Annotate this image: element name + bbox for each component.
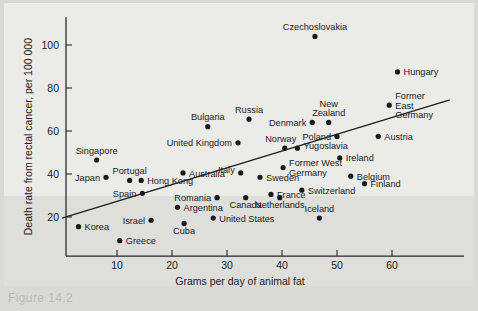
data-point[interactable] bbox=[76, 224, 81, 229]
data-point-labels-group: KoreaJapanSingaporeGreecePortugalHong Ko… bbox=[75, 22, 439, 246]
data-point[interactable] bbox=[211, 215, 216, 220]
data-point-label: Denmark bbox=[269, 118, 307, 128]
data-point[interactable] bbox=[310, 120, 315, 125]
data-point-label: Austria bbox=[384, 132, 413, 142]
data-point[interactable] bbox=[94, 157, 99, 162]
data-point-label: Poland bbox=[302, 132, 331, 142]
data-point[interactable] bbox=[312, 34, 317, 39]
data-points-group bbox=[76, 34, 400, 243]
data-point-label: Russia bbox=[235, 105, 264, 115]
figure-caption: Figure 14.2 bbox=[8, 291, 73, 305]
data-point[interactable] bbox=[282, 146, 287, 151]
data-point-label: Singapore bbox=[76, 146, 118, 156]
data-point[interactable] bbox=[139, 178, 144, 183]
data-point-label: Norway bbox=[265, 134, 297, 144]
scatter-plot: 20406080100102030405060 KoreaJapanSingap… bbox=[0, 0, 478, 311]
data-point[interactable] bbox=[205, 124, 210, 129]
data-point-label: Ireland bbox=[346, 153, 374, 163]
axis-titles-group: Grams per day of animal fatDeath rate fr… bbox=[22, 38, 305, 287]
data-point[interactable] bbox=[246, 117, 251, 122]
data-point-label: Czechoslovakia bbox=[283, 22, 348, 32]
data-point[interactable] bbox=[376, 134, 381, 139]
data-point-label: Spain bbox=[113, 189, 137, 199]
data-point-label: Portugal bbox=[113, 166, 147, 176]
data-point[interactable] bbox=[268, 192, 273, 197]
data-point[interactable] bbox=[175, 205, 180, 210]
data-point-label: Japan bbox=[75, 173, 100, 183]
data-point-label: Hong Kong bbox=[147, 176, 193, 186]
y-axis-tick-label: 60 bbox=[47, 125, 59, 137]
data-point[interactable] bbox=[127, 178, 132, 183]
data-point[interactable] bbox=[257, 175, 262, 180]
data-point[interactable] bbox=[295, 146, 300, 151]
data-point[interactable] bbox=[387, 103, 392, 108]
data-point[interactable] bbox=[180, 170, 185, 175]
data-point-label: Former WestGermany bbox=[289, 158, 342, 177]
x-axis-tick-label: 30 bbox=[221, 259, 233, 271]
x-axis-title: Grams per day of animal fat bbox=[175, 275, 305, 287]
y-axis-tick-label: 40 bbox=[47, 168, 59, 180]
data-point[interactable] bbox=[281, 165, 286, 170]
data-point[interactable] bbox=[140, 191, 145, 196]
x-axis-tick-label: 10 bbox=[111, 259, 123, 271]
data-point-label: Finland bbox=[371, 179, 401, 189]
data-point[interactable] bbox=[117, 238, 122, 243]
data-point-label: NewZealand bbox=[312, 99, 345, 118]
data-point[interactable] bbox=[317, 215, 322, 220]
x-axis-tick-label: 20 bbox=[166, 259, 178, 271]
y-axis-tick-label: 20 bbox=[47, 211, 59, 223]
data-point-label: United States bbox=[219, 214, 275, 224]
data-point-label: Greece bbox=[126, 236, 156, 246]
data-point[interactable] bbox=[103, 175, 108, 180]
data-point-label: Hungary bbox=[404, 67, 439, 77]
data-point-label: France bbox=[277, 190, 306, 200]
data-point-label: Italy bbox=[218, 165, 235, 175]
y-axis-tick-label: 100 bbox=[41, 39, 59, 51]
data-point[interactable] bbox=[238, 170, 243, 175]
data-point-label: Netherlands bbox=[255, 200, 305, 210]
data-point[interactable] bbox=[348, 174, 353, 179]
data-point-label: Bulgaria bbox=[191, 112, 226, 122]
x-axis-tick-label: 60 bbox=[386, 259, 398, 271]
data-point[interactable] bbox=[235, 140, 240, 145]
data-point-label: Israel bbox=[123, 216, 145, 226]
data-point-label: Yugoslavia bbox=[303, 141, 348, 151]
data-point[interactable] bbox=[395, 69, 400, 74]
data-point-label: Korea bbox=[85, 222, 110, 232]
data-point-label: Iceland bbox=[305, 204, 335, 214]
data-point[interactable] bbox=[149, 218, 154, 223]
figure-container: 20406080100102030405060 KoreaJapanSingap… bbox=[0, 0, 478, 311]
data-point-label: Argentina bbox=[184, 203, 224, 213]
data-point-label: Switzerland bbox=[308, 186, 356, 196]
data-point[interactable] bbox=[215, 195, 220, 200]
x-axis-tick-label: 50 bbox=[331, 259, 343, 271]
data-point-label: FormerEastGermany bbox=[395, 91, 433, 120]
data-point-label: Romania bbox=[174, 193, 212, 203]
y-axis-title: Death rate from rectal cancer, per 100 0… bbox=[22, 38, 34, 235]
data-point[interactable] bbox=[334, 134, 339, 139]
y-axis-tick-label: 80 bbox=[47, 82, 59, 94]
data-point-label: Cuba bbox=[173, 226, 196, 236]
data-point[interactable] bbox=[362, 181, 367, 186]
x-axis-tick-label: 40 bbox=[276, 259, 288, 271]
data-point-label: United Kingdom bbox=[167, 138, 233, 148]
data-point[interactable] bbox=[326, 120, 331, 125]
